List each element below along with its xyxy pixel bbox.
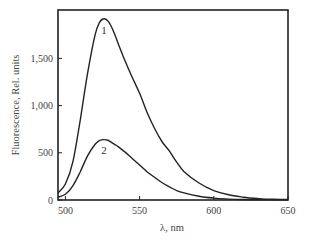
x-axis-label: λ, nm bbox=[160, 222, 184, 233]
curve-1 bbox=[58, 19, 288, 200]
x-tick-label: 500 bbox=[58, 205, 73, 216]
plot-area: 50055060065005001,0001,50012 bbox=[31, 10, 296, 216]
y-tick-label: 1,500 bbox=[31, 53, 54, 64]
curve-2 bbox=[58, 140, 288, 200]
fluorescence-chart: 50055060065005001,0001,50012 λ, nm Fluor… bbox=[0, 0, 310, 242]
x-tick-label: 600 bbox=[206, 205, 221, 216]
y-axis-label: Fluorescence, Rel. units bbox=[10, 55, 21, 156]
x-tick-label: 650 bbox=[281, 205, 296, 216]
curve-label-1: 1 bbox=[101, 24, 107, 36]
curve-label-2: 2 bbox=[101, 144, 107, 156]
y-tick-label: 500 bbox=[38, 147, 53, 158]
x-tick-label: 550 bbox=[132, 205, 147, 216]
plot-frame bbox=[58, 10, 288, 200]
y-tick-label: 1,000 bbox=[31, 100, 54, 111]
y-tick-label: 0 bbox=[48, 195, 53, 206]
